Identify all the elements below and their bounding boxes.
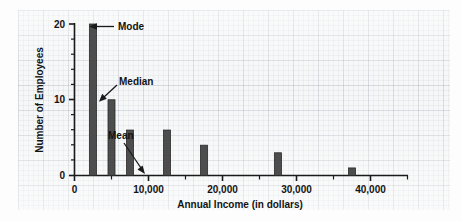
x-axis-title: Annual Income (in dollars)	[177, 199, 303, 210]
y-tick-label-0: 0	[59, 170, 65, 181]
annotation-mode: Mode	[89, 21, 145, 32]
annotation-median: Median	[99, 76, 153, 102]
bar	[90, 24, 97, 176]
axis-lines	[75, 23, 409, 176]
x-axis-ticks	[75, 176, 408, 182]
y-tick-label-20: 20	[54, 19, 66, 30]
y-axis-title: Number of Employees	[34, 47, 45, 153]
x-tick-label-30000: 30,000	[281, 184, 312, 195]
x-tick-label-20000: 20,000	[207, 184, 238, 195]
bar	[349, 168, 356, 176]
bar-series	[90, 24, 356, 176]
y-tick-label-10: 10	[54, 94, 66, 105]
x-tick-label-40000: 40,000	[355, 184, 386, 195]
bar	[201, 145, 208, 175]
annotation-mean-label: Mean	[108, 130, 134, 141]
x-tick-label-10000: 10,000	[133, 184, 164, 195]
y-axis-ticks	[69, 24, 75, 176]
histogram-plot: 20 10 0 Number of Employees 0 10,000 20,…	[0, 0, 462, 221]
bar	[164, 130, 171, 175]
annotation-mode-label: Mode	[118, 21, 145, 32]
annotation-median-label: Median	[119, 76, 153, 87]
x-tick-label-0: 0	[72, 184, 78, 195]
histogram-figure: 20 10 0 Number of Employees 0 10,000 20,…	[0, 0, 462, 221]
bar	[275, 153, 282, 176]
